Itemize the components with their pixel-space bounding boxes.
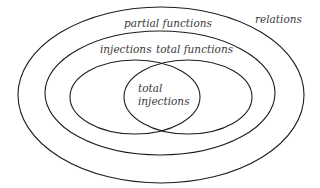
total-injections-label-line1: total [138, 82, 162, 94]
euler-diagram: relations partial functions injections t… [0, 0, 320, 188]
total-injections-label-line2: injections [138, 95, 190, 107]
injections-label: injections [100, 43, 152, 55]
partial-functions-label: partial functions [124, 17, 212, 29]
total-functions-label: total functions [156, 43, 234, 55]
relations-label: relations [255, 13, 303, 25]
